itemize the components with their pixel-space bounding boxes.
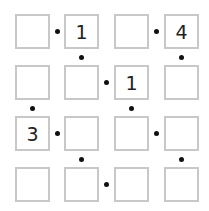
grid-cell-r4-c3[interactable] bbox=[114, 167, 149, 202]
grid-cell-r3-c4[interactable] bbox=[164, 116, 199, 151]
dot-marker bbox=[30, 106, 35, 111]
grid-cell-r4-c2[interactable] bbox=[64, 167, 99, 202]
dot-marker bbox=[79, 55, 84, 60]
grid-cell-r2-c1[interactable] bbox=[15, 65, 50, 100]
dot-marker bbox=[129, 106, 134, 111]
grid-cell-r1-c3[interactable] bbox=[114, 14, 149, 49]
dot-marker bbox=[55, 29, 60, 34]
dot-marker bbox=[179, 55, 184, 60]
grid-cell-r2-c4[interactable] bbox=[164, 65, 199, 100]
dot-marker bbox=[154, 131, 159, 136]
dot-marker bbox=[104, 80, 109, 85]
grid-cell-r3-c3[interactable] bbox=[114, 116, 149, 151]
grid-cell-r3-c1[interactable]: 3 bbox=[15, 116, 50, 151]
grid-cell-r2-c2[interactable] bbox=[64, 65, 99, 100]
grid-cell-r1-c1[interactable] bbox=[15, 14, 50, 49]
grid-cell-r2-c3[interactable]: 1 bbox=[114, 65, 149, 100]
grid-cell-r1-c2[interactable]: 1 bbox=[64, 14, 99, 49]
dot-marker bbox=[55, 131, 60, 136]
dot-marker bbox=[104, 182, 109, 187]
grid-cell-r3-c2[interactable] bbox=[64, 116, 99, 151]
dot-marker bbox=[179, 157, 184, 162]
grid-cell-r4-c1[interactable] bbox=[15, 167, 50, 202]
grid-cell-r1-c4[interactable]: 4 bbox=[164, 14, 199, 49]
grid-cell-r4-c4[interactable] bbox=[164, 167, 199, 202]
dot-marker bbox=[154, 29, 159, 34]
dot-marker bbox=[79, 157, 84, 162]
